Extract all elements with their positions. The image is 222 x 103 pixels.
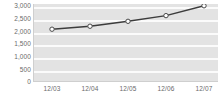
line-chart: 3,000 2,500 2,000 1,500 1,000 500 0 12/0… — [0, 0, 222, 103]
y-tick-label-2500: 2,500 — [1, 15, 31, 22]
y-axis: 3,000 2,500 2,000 1,500 1,000 500 0 — [0, 0, 31, 85]
y-tick-label-3000: 3,000 — [1, 2, 31, 9]
data-series-line — [33, 4, 218, 81]
x-axis-line — [33, 81, 218, 82]
x-tick-label-3: 12/05 — [110, 84, 146, 93]
plot-area — [33, 4, 218, 81]
data-point-12-06 — [164, 13, 168, 17]
y-tick-label-500: 500 — [1, 66, 31, 73]
data-point-12-07 — [202, 4, 206, 8]
x-tick-label-5: 12/07 — [186, 84, 222, 93]
y-tick-label-1500: 1,500 — [1, 40, 31, 47]
data-point-12-04 — [88, 24, 92, 28]
data-point-12-05 — [126, 19, 130, 23]
line-path — [52, 6, 204, 29]
y-axis-line — [33, 4, 34, 81]
x-axis: 12/03 12/04 12/05 12/06 12/07 — [33, 84, 218, 98]
y-tick-label-1000: 1,000 — [1, 53, 31, 60]
x-tick-label-1: 12/03 — [34, 84, 70, 93]
data-point-12-03 — [50, 27, 54, 31]
y-tick-label-2000: 2,000 — [1, 28, 31, 35]
y-tick-label-0: 0 — [1, 78, 31, 85]
x-tick-label-4: 12/06 — [148, 84, 184, 93]
x-tick-label-2: 12/04 — [72, 84, 108, 93]
